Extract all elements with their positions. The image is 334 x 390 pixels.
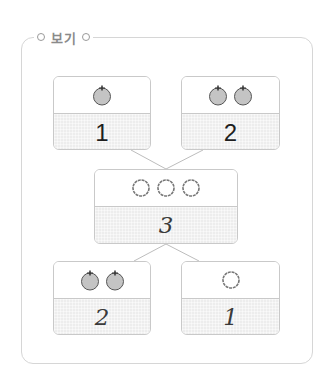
header-dot-left-icon bbox=[37, 33, 45, 41]
number-area: 1 bbox=[182, 299, 279, 335]
circle-icon bbox=[156, 178, 176, 198]
number-area: 3 bbox=[95, 207, 237, 244]
apple-icon bbox=[105, 269, 125, 291]
picture-area bbox=[54, 262, 150, 299]
example-header: 보기 bbox=[34, 28, 93, 46]
circle-icon bbox=[181, 178, 201, 198]
number-value: 3 bbox=[159, 214, 174, 237]
circle-icon bbox=[221, 270, 241, 290]
number-area: 2 bbox=[182, 114, 279, 150]
number-box-bottom-right: 1 bbox=[181, 261, 280, 335]
apple-icon bbox=[80, 269, 100, 291]
number-value: 2 bbox=[224, 121, 237, 145]
picture-area bbox=[182, 262, 279, 299]
apple-icon bbox=[92, 84, 112, 106]
circle-icon bbox=[131, 178, 151, 198]
number-box-top-left: 1 bbox=[53, 76, 151, 150]
header-dot-right-icon bbox=[82, 33, 90, 41]
number-value: 2 bbox=[95, 306, 110, 329]
picture-area bbox=[95, 170, 237, 207]
number-box-middle: 3 bbox=[94, 169, 238, 244]
number-value: 1 bbox=[95, 121, 108, 145]
number-area: 2 bbox=[54, 299, 150, 335]
number-box-top-right: 2 bbox=[181, 76, 280, 150]
picture-area bbox=[54, 77, 150, 114]
number-value: 1 bbox=[223, 306, 238, 329]
apple-icon bbox=[208, 84, 228, 106]
number-area: 1 bbox=[54, 114, 150, 150]
number-box-bottom-left: 2 bbox=[53, 261, 151, 335]
header-title: 보기 bbox=[51, 28, 76, 47]
apple-icon bbox=[233, 84, 253, 106]
picture-area bbox=[182, 77, 279, 114]
